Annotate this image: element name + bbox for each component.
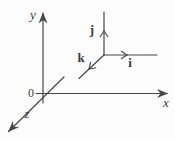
z-axis-label: z (23, 106, 29, 121)
j-vector-label: j (89, 22, 94, 37)
unit-vectors: j i k (77, 12, 157, 79)
y-axis-label: y (28, 7, 36, 22)
x-axis-label: x (162, 95, 169, 110)
k-vector-label: k (77, 50, 85, 65)
figure-canvas: y x z 0 j i k (0, 0, 175, 141)
z-axis-line (9, 77, 65, 132)
k-vector-line (89, 55, 104, 69)
i-vector-label: i (128, 55, 132, 70)
k-axis-extension (79, 69, 89, 79)
coordinate-system-diagram: y x z 0 j i k (0, 0, 175, 141)
origin-label: 0 (28, 86, 34, 100)
